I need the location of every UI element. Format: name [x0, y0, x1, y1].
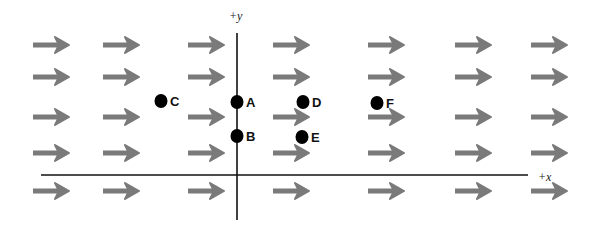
field-arrow-icon	[33, 69, 69, 85]
field-arrow-icon	[33, 37, 69, 53]
field-arrow-icon	[33, 183, 69, 199]
field-arrow-icon	[103, 37, 139, 53]
field-arrow-icon	[188, 109, 224, 125]
point-label: D	[312, 95, 321, 110]
field-arrow-icon	[368, 145, 404, 161]
point-label: E	[311, 130, 320, 145]
point-d: D	[297, 95, 322, 110]
field-arrow-icon	[455, 109, 491, 125]
field-arrow-icon	[455, 69, 491, 85]
point-label: C	[170, 94, 180, 109]
field-arrow-icon	[188, 69, 224, 85]
field-arrow-icon	[531, 109, 567, 125]
x-axis-label: +x	[538, 170, 552, 184]
field-arrow-icon	[368, 109, 404, 125]
field-arrow-icon	[368, 183, 404, 199]
point-a: A	[231, 95, 257, 110]
field-arrow-icon	[273, 109, 309, 125]
field-arrow-icon	[33, 145, 69, 161]
field-arrow-icon	[368, 37, 404, 53]
field-arrow-icon	[273, 37, 309, 53]
diagram-canvas: +x +y ABCDEF	[0, 0, 594, 234]
field-arrow-icon	[531, 145, 567, 161]
y-axis-label: +y	[229, 9, 243, 23]
point-b: B	[231, 129, 256, 144]
field-arrow-icon	[188, 37, 224, 53]
point-dot-icon	[231, 129, 244, 143]
field-arrow-icon	[531, 183, 567, 199]
point-c: C	[155, 94, 181, 109]
point-label: F	[386, 96, 394, 111]
field-arrow-icon	[188, 145, 224, 161]
point-dot-icon	[371, 96, 384, 110]
point-label: A	[246, 95, 256, 110]
field-arrow-icon	[455, 37, 491, 53]
field-arrow-icon	[103, 145, 139, 161]
point-label: B	[246, 129, 255, 144]
field-arrow-icon	[188, 183, 224, 199]
point-f: F	[371, 96, 395, 111]
field-arrow-icon	[273, 145, 309, 161]
field-arrow-icon	[103, 109, 139, 125]
field-arrow-icon	[273, 69, 309, 85]
field-arrow-icon	[368, 69, 404, 85]
field-arrow-icon	[531, 37, 567, 53]
point-dot-icon	[155, 94, 168, 108]
point-e: E	[296, 130, 321, 145]
point-dot-icon	[231, 95, 244, 109]
field-arrow-icon	[103, 69, 139, 85]
field-arrow-icon	[455, 145, 491, 161]
field-arrow-icon	[33, 109, 69, 125]
field-diagram: +x +y ABCDEF	[0, 0, 594, 234]
point-dot-icon	[297, 95, 310, 109]
point-dot-icon	[296, 130, 309, 144]
field-arrow-icon	[103, 183, 139, 199]
field-arrow-icon	[273, 183, 309, 199]
field-arrow-icon	[531, 69, 567, 85]
field-arrow-icon	[455, 183, 491, 199]
